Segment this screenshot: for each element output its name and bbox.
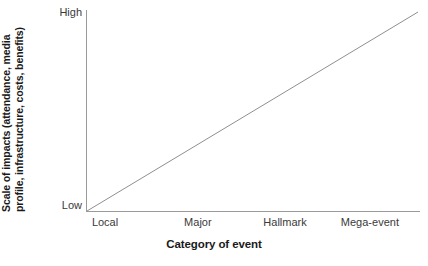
x-axis-tick-label: Major (184, 216, 212, 228)
y-axis-tick-low: Low (42, 199, 82, 211)
trend-line (87, 12, 418, 211)
y-axis-title-line-2: profile, infrastructure, costs, benefits… (13, 27, 26, 212)
x-axis-tick-label: Mega-event (341, 216, 399, 228)
chart-figure: Scale of impacts (attendance, media prof… (0, 0, 428, 266)
x-axis-title: Category of event (0, 238, 428, 250)
x-axis-tick-label: Local (92, 216, 118, 228)
y-axis-title-line-1: Scale of impacts (attendance, media (0, 35, 13, 212)
trend-line-series (86, 10, 420, 212)
x-axis-tick-label: Hallmark (263, 216, 306, 228)
y-axis-tick-high: High (42, 6, 82, 18)
y-axis-title: Scale of impacts (attendance, media prof… (0, 0, 46, 212)
plot-area (86, 10, 420, 212)
